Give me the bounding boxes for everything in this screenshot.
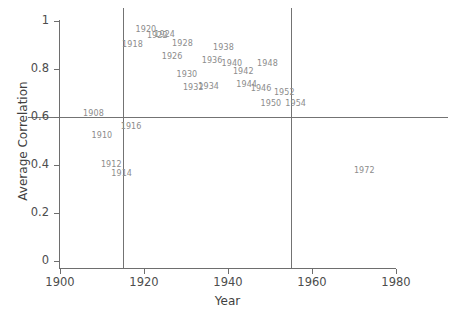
y-axis-title: Average Correlation — [17, 61, 29, 221]
data-point-1950: 1950 — [261, 100, 282, 108]
data-point-1924: 1924 — [154, 31, 175, 39]
x-tick-label-1960: 1960 — [282, 277, 342, 289]
data-point-1954: 1954 — [285, 100, 306, 108]
x-tick-1900 — [60, 269, 61, 274]
data-point-1926: 1926 — [162, 53, 183, 61]
x-tick-1940 — [228, 269, 229, 274]
data-point-1908: 1908 — [83, 110, 104, 118]
y-tick-0 — [54, 261, 59, 262]
x-tick-label-1920: 1920 — [114, 277, 174, 289]
y-tick-0.4 — [54, 165, 59, 166]
x-tick-label-1940: 1940 — [198, 277, 258, 289]
data-point-1942: 1942 — [233, 68, 254, 76]
x-tick-1960 — [312, 269, 313, 274]
y-tick-1 — [54, 21, 59, 22]
data-point-1946: 1946 — [251, 85, 272, 93]
data-point-1948: 1948 — [257, 60, 278, 68]
y-tick-0.6 — [54, 117, 59, 118]
x-tick-label-1900: 1900 — [30, 277, 90, 289]
y-axis-line — [59, 20, 60, 269]
data-point-1914: 1914 — [111, 170, 132, 178]
x-axis-title: Year — [0, 295, 455, 307]
data-point-1972: 1972 — [354, 167, 375, 175]
y-tick-0.8 — [54, 69, 59, 70]
data-point-1938: 1938 — [213, 44, 234, 52]
data-point-1912: 1912 — [101, 161, 122, 169]
data-point-1934: 1934 — [198, 83, 219, 91]
y-tick-label-0: 0 — [0, 255, 49, 267]
scatter-plot: 00.20.40.60.81 19001920194019601980 1908… — [0, 0, 455, 313]
y-tick-0.2 — [54, 213, 59, 214]
data-point-1916: 1916 — [121, 123, 142, 131]
data-point-1928: 1928 — [172, 40, 193, 48]
x-tick-1920 — [144, 269, 145, 274]
data-point-1918: 1918 — [122, 41, 143, 49]
data-point-1952: 1952 — [274, 89, 295, 97]
data-point-1910: 1910 — [92, 132, 113, 140]
reference-line-vertical-1955 — [291, 8, 292, 269]
x-tick-1980 — [396, 269, 397, 274]
data-point-1930: 1930 — [177, 71, 198, 79]
data-point-1936: 1936 — [202, 57, 223, 65]
x-tick-label-1980: 1980 — [366, 277, 426, 289]
y-tick-label-1: 1 — [0, 15, 49, 27]
